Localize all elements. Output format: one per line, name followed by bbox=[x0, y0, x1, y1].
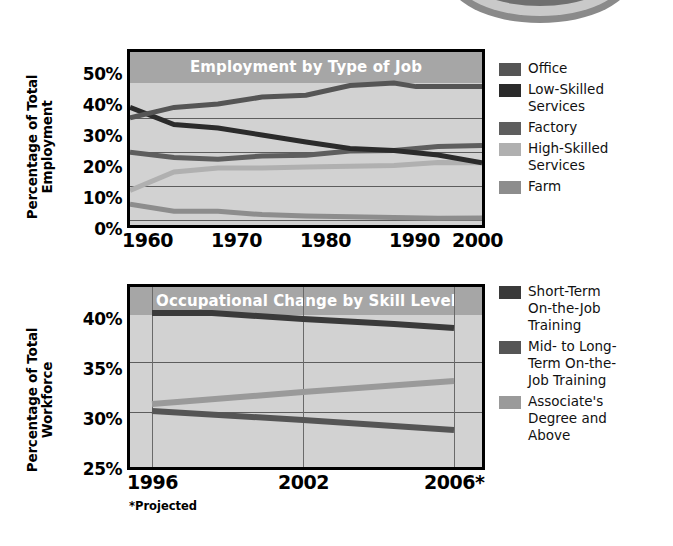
legend-item-low-skilled-services[interactable]: Low-Skilled Services bbox=[499, 81, 604, 115]
legend-label-low-skilled-services: Low-Skilled Services bbox=[528, 81, 604, 115]
legend-swatch-factory bbox=[499, 122, 521, 135]
legend-swatch-mid-long-term-training bbox=[499, 341, 521, 354]
legend-label-office: Office bbox=[528, 60, 567, 77]
chart1-x-tick: 2000 bbox=[452, 231, 503, 250]
chart2-line-mid-long-term-training bbox=[152, 411, 454, 430]
legend-label-associates-degree: Associate's Degree and Above bbox=[528, 393, 607, 444]
legend-label-short-term-training: Short-Term On-the-Job Training bbox=[528, 283, 601, 334]
legend-label-factory: Factory bbox=[528, 119, 577, 136]
legend-item-associates-degree[interactable]: Associate's Degree and Above bbox=[499, 393, 607, 444]
legend-swatch-farm bbox=[499, 181, 521, 194]
legend-swatch-office bbox=[499, 63, 521, 76]
legend-label-mid-long-term-training: Mid- to Long- Term On-the- Job Training bbox=[528, 338, 617, 389]
legend-swatch-low-skilled-services bbox=[499, 84, 521, 97]
chart1-line-farm bbox=[130, 204, 482, 218]
chart1-x-tick: 1980 bbox=[300, 231, 351, 250]
chart2-plot-area: Occupational Change by Skill Level bbox=[127, 284, 485, 470]
chart1-plot-area: Employment by Type of Job bbox=[127, 49, 485, 228]
legend-item-factory[interactable]: Factory bbox=[499, 119, 577, 136]
legend-label-high-skilled-services: High-Skilled Services bbox=[528, 140, 608, 174]
chart1-y-tick: 40% bbox=[83, 97, 122, 114]
chart1-series-lines bbox=[130, 52, 482, 225]
chart1-y-axis-title-line1: Percentage of Total bbox=[25, 72, 40, 222]
chart1-x-ticks: 1960 1970 1980 1990 2000 bbox=[0, 231, 673, 255]
chart2-y-tick: 30% bbox=[83, 411, 122, 428]
legend-item-mid-long-term-training[interactable]: Mid- to Long- Term On-the- Job Training bbox=[499, 338, 617, 389]
chart1-y-tick: 20% bbox=[83, 159, 122, 176]
chart2-y-ticks: 40% 35% 30% 25% bbox=[44, 287, 122, 462]
chart1-y-tick: 10% bbox=[83, 190, 122, 207]
legend-item-high-skilled-services[interactable]: High-Skilled Services bbox=[499, 140, 608, 174]
chart-employment-by-type-of-job: Percentage of Total Employment 50% 40% 3… bbox=[0, 0, 673, 260]
chart2-x-tick: 2002 bbox=[278, 473, 329, 492]
chart1-y-tick: 50% bbox=[83, 66, 122, 83]
chart2-line-associates-degree bbox=[152, 381, 454, 404]
chart1-line-high-skilled-services bbox=[130, 162, 482, 190]
chart2-line-short-term-training bbox=[152, 313, 454, 328]
chart2-x-ticks: 1996 2002 2006* bbox=[0, 473, 673, 497]
chart1-x-tick: 1960 bbox=[122, 231, 173, 250]
chart2-y-axis-title-line1: Percentage of Total bbox=[25, 325, 40, 475]
legend-item-short-term-training[interactable]: Short-Term On-the-Job Training bbox=[499, 283, 601, 334]
legend-swatch-short-term-training bbox=[499, 286, 521, 299]
legend-label-farm: Farm bbox=[528, 178, 561, 195]
chart1-line-office bbox=[130, 83, 482, 118]
chart2-series-lines bbox=[130, 287, 482, 467]
legend-swatch-associates-degree bbox=[499, 396, 521, 409]
chart1-x-tick: 1970 bbox=[211, 231, 262, 250]
chart2-y-tick: 35% bbox=[83, 361, 122, 378]
legend-item-farm[interactable]: Farm bbox=[499, 178, 561, 195]
chart1-y-tick: 30% bbox=[83, 128, 122, 145]
chart2-footnote: *Projected bbox=[129, 499, 197, 513]
chart1-x-tick: 1990 bbox=[389, 231, 440, 250]
chart-occupational-change-by-skill-level: Percentage of Total Workforce 40% 35% 30… bbox=[0, 265, 673, 546]
chart2-y-tick: 40% bbox=[83, 311, 122, 328]
chart2-x-tick: 1996 bbox=[127, 473, 178, 492]
chart2-x-tick: 2006* bbox=[424, 473, 484, 492]
legend-item-office[interactable]: Office bbox=[499, 60, 567, 77]
legend-swatch-high-skilled-services bbox=[499, 143, 521, 156]
chart1-y-ticks: 50% 40% 30% 20% 10% 0% bbox=[44, 52, 122, 232]
